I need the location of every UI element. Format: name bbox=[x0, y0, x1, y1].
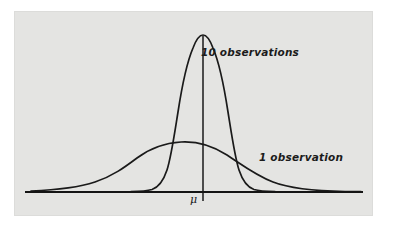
label-ten-observations: 10 observations bbox=[201, 47, 299, 58]
wide-curve-one-observation bbox=[31, 142, 361, 192]
label-one-observation: 1 observation bbox=[259, 152, 343, 163]
distribution-plot-svg bbox=[15, 12, 372, 215]
label-mu-axis-tick: μ bbox=[190, 194, 197, 205]
figure-root: 10 observations 1 observation μ bbox=[0, 0, 393, 232]
plot-panel bbox=[14, 11, 373, 216]
